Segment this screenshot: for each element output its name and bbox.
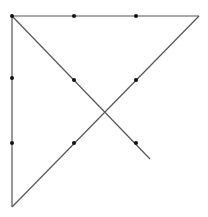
dot-8 [72, 141, 76, 145]
dot-3 [134, 14, 138, 18]
dot-6 [72, 78, 76, 82]
dot-2 [72, 14, 76, 18]
dot-7 [134, 78, 138, 82]
line-group [12, 16, 199, 207]
dot-4 [10, 76, 14, 80]
nine-dots-diagram [0, 0, 208, 217]
dot-1 [10, 14, 14, 18]
dot-9 [134, 141, 138, 145]
dot-5 [10, 141, 14, 145]
